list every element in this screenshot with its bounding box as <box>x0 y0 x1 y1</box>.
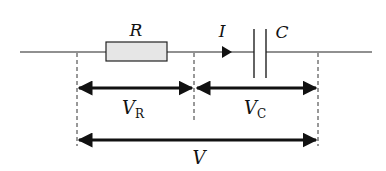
resistor <box>106 42 167 61</box>
current-label: I <box>218 21 226 41</box>
v-total-label: V <box>193 147 208 168</box>
current-arrow-icon <box>222 46 232 58</box>
rc-circuit-diagram: R I C VR VC V <box>0 0 386 171</box>
capacitor-label: C <box>275 22 288 42</box>
resistor-label: R <box>129 20 143 40</box>
vr-label: VR <box>122 97 145 121</box>
vc-label: VC <box>244 97 266 121</box>
